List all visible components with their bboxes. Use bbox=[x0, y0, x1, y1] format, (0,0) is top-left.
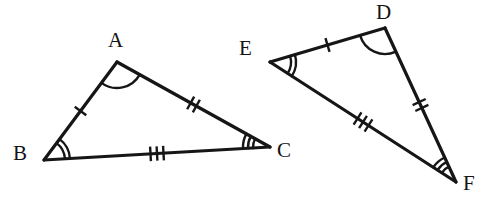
vertex-label-e: E bbox=[239, 38, 252, 59]
angle-arc bbox=[433, 157, 444, 167]
triangle-def bbox=[270, 28, 456, 182]
vertex-label-f: F bbox=[463, 173, 475, 194]
vertex-label-a: A bbox=[108, 30, 123, 51]
vertex-label-b: B bbox=[13, 143, 27, 164]
vertex-label-d: D bbox=[376, 2, 391, 23]
tick-mark bbox=[157, 146, 158, 160]
triangles-figure bbox=[0, 0, 499, 212]
tick-mark bbox=[150, 147, 151, 161]
angle-arc bbox=[243, 134, 246, 149]
geometry-diagram: A B C D E F bbox=[0, 0, 499, 212]
angle-arc bbox=[248, 136, 251, 148]
tick-mark bbox=[163, 146, 164, 160]
angle-arc bbox=[442, 167, 449, 173]
vertex-label-c: C bbox=[277, 140, 291, 161]
triangle-abc bbox=[44, 62, 270, 161]
angle-arc bbox=[288, 56, 291, 73]
tick-group-ef bbox=[354, 112, 373, 131]
angle-arc bbox=[57, 143, 65, 159]
angle-arc bbox=[292, 55, 296, 76]
